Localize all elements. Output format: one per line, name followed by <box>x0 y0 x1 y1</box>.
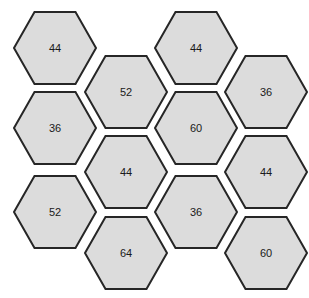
hex-cell[interactable]: 44 <box>85 136 167 208</box>
hex-cell-label: 36 <box>260 86 272 98</box>
hex-cell[interactable]: 64 <box>85 217 167 289</box>
hex-cell-label: 36 <box>49 122 61 134</box>
hex-cell[interactable]: 60 <box>225 217 307 289</box>
hex-cell-label: 64 <box>120 247 132 259</box>
hex-cell-label: 52 <box>120 86 132 98</box>
hex-cell[interactable]: 60 <box>155 92 237 164</box>
hex-cell-label: 36 <box>190 206 202 218</box>
hex-cell-label: 44 <box>120 166 132 178</box>
hex-cell[interactable]: 36 <box>155 176 237 248</box>
hex-cell-label: 60 <box>190 122 202 134</box>
hex-cell[interactable]: 52 <box>14 176 96 248</box>
hex-cell[interactable]: 36 <box>225 56 307 128</box>
hex-cell[interactable]: 52 <box>85 56 167 128</box>
hex-cell[interactable]: 44 <box>155 12 237 84</box>
hexagonal-grid-figure: 443652524464446036364460 <box>0 0 309 298</box>
hex-cell[interactable]: 44 <box>14 12 96 84</box>
hex-cell-label: 44 <box>49 42 61 54</box>
hex-cell-label: 60 <box>260 247 272 259</box>
hex-cell[interactable]: 36 <box>14 92 96 164</box>
hex-cell-label: 44 <box>260 166 272 178</box>
hex-cell-label: 52 <box>49 206 61 218</box>
hex-cell[interactable]: 44 <box>225 136 307 208</box>
hex-grid-canvas: 443652524464446036364460 <box>0 0 309 298</box>
hex-cell-label: 44 <box>190 42 202 54</box>
